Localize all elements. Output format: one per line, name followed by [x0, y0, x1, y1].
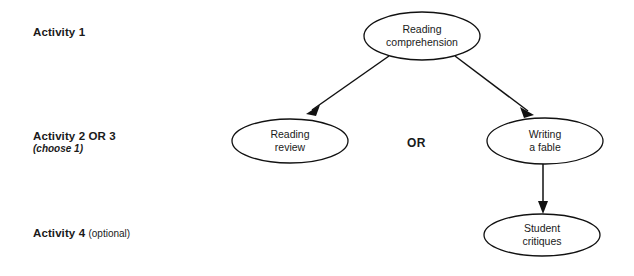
row-label-activity-2-or-3: Activity 2 OR 3 (choose 1): [33, 129, 116, 156]
row-label-activity-2-or-3-sub: (choose 1): [33, 143, 116, 156]
node-label-line-1: Reading: [386, 23, 458, 36]
row-label-activity-4-main: Activity 4: [33, 227, 85, 239]
node-label-line-2: comprehension: [386, 36, 458, 49]
row-label-activity-2-or-3-main: Activity 2 OR 3: [33, 130, 116, 142]
or-connector-label: OR: [407, 136, 426, 150]
node-label-line-1: Writing: [529, 128, 561, 141]
node-label-reading-comprehension: Reading comprehension: [386, 23, 458, 49]
node-label-line-1: Student: [522, 222, 561, 235]
row-label-activity-4: Activity 4 (optional): [33, 226, 130, 241]
activity-flowchart: Reading comprehension Reading review Wri…: [0, 0, 634, 276]
row-label-activity-1-main: Activity 1: [33, 26, 85, 38]
node-label-writing-a-fable: Writing a fable: [529, 128, 561, 154]
node-label-line-2: review: [270, 141, 309, 154]
node-label-line-2: critiques: [522, 235, 561, 248]
node-label-line-1: Reading: [270, 128, 309, 141]
edge-writing-a-fable-to-student-critiques: [538, 164, 548, 214]
node-label-reading-review: Reading review: [270, 128, 309, 154]
edge-comprehension-to-writing-a-fable: [455, 56, 534, 118]
row-label-activity-1: Activity 1: [33, 25, 85, 39]
row-label-activity-4-sub: (optional): [88, 228, 130, 239]
node-label-line-2: a fable: [529, 141, 561, 154]
edge-comprehension-to-reading-review: [306, 56, 389, 116]
node-label-student-critiques: Student critiques: [522, 222, 561, 248]
